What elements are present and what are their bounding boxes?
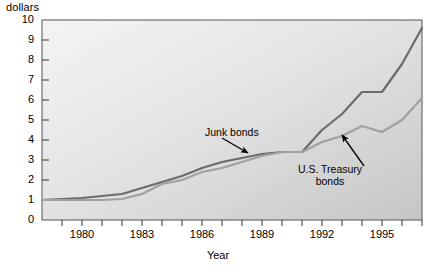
x-axis-tick-label: 1992 (310, 228, 334, 240)
annotation-treasury-bonds: U.S. Treasury bonds (287, 163, 373, 187)
x-axis-tick-label: 1995 (370, 228, 394, 240)
x-axis-tick-label: 1986 (190, 228, 214, 240)
annotation-junk-bonds: Junk bonds (205, 126, 259, 138)
x-axis-tick-label: 1989 (250, 228, 274, 240)
x-axis-title: Year (0, 249, 436, 261)
x-axis-tick-label: 1983 (130, 228, 154, 240)
x-axis-tick-label: 1980 (70, 228, 94, 240)
x-axis-labels: 198019831986198919921995 (0, 0, 436, 276)
chart-figure: dollars 012345678910 1980198319861989199… (0, 0, 436, 276)
